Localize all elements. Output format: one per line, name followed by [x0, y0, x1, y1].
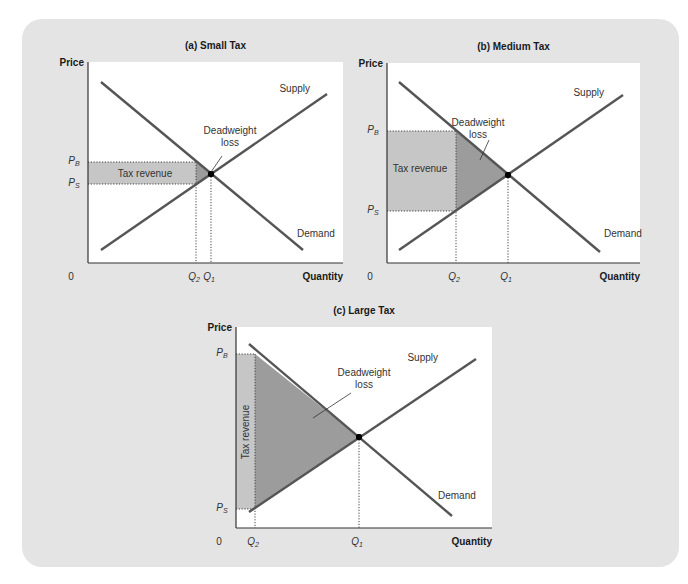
tax-revenue-label: Tax revenue: [118, 168, 173, 179]
y-axis-label: Price: [60, 57, 85, 68]
chart-title: (c) Large Tax: [333, 305, 395, 316]
tax-revenue-label: Tax revenue: [393, 163, 448, 174]
supply-label: Supply: [407, 352, 438, 363]
x-axis-label: Quantity: [302, 271, 343, 282]
pb-tick-label: PB: [216, 347, 228, 359]
origin-label: 0: [68, 271, 74, 282]
x-axis-label: Quantity: [451, 536, 492, 547]
tax-revenue-label: Tax revenue: [240, 404, 251, 459]
ps-tick-label: PS: [68, 177, 80, 189]
q1-tick-label: Q1: [203, 271, 215, 283]
chart-title: (a) Small Tax: [185, 40, 246, 51]
supply-label: Supply: [573, 87, 604, 98]
q1-tick-label: Q1: [500, 271, 512, 283]
demand-label: Demand: [604, 228, 642, 239]
chart-panel-a: (a) Small TaxPriceQuantity0PBPSQ2Q1Suppl…: [60, 40, 344, 283]
q2-tick-label: Q2: [247, 536, 259, 548]
ps-tick-label: PS: [367, 204, 379, 216]
chart-title: (b) Medium Tax: [477, 41, 550, 52]
y-axis-label: Price: [359, 58, 384, 69]
q2-tick-label: Q2: [188, 271, 200, 283]
demand-label: Demand: [438, 490, 476, 501]
chart-panel-c: (c) Large TaxPriceQuantity0PBPSQ2Q1Suppl…: [208, 305, 493, 548]
equilibrium-point: [505, 172, 511, 178]
q1-tick-label: Q1: [351, 536, 363, 548]
equilibrium-point: [356, 434, 362, 440]
tax-deadweight-loss-figure: (a) Small TaxPriceQuantity0PBPSQ2Q1Suppl…: [0, 0, 688, 584]
q2-tick-label: Q2: [448, 271, 460, 283]
demand-label: Demand: [297, 228, 335, 239]
origin-label: 0: [367, 271, 373, 282]
x-axis-label: Quantity: [599, 271, 640, 282]
pb-tick-label: PB: [68, 155, 80, 167]
pb-tick-label: PB: [367, 124, 379, 136]
chart-panel-b: (b) Medium TaxPriceQuantity0PBPSQ2Q1Supp…: [359, 41, 642, 283]
supply-label: Supply: [279, 83, 310, 94]
ps-tick-label: PS: [216, 502, 228, 514]
origin-label: 0: [216, 536, 222, 547]
y-axis-label: Price: [208, 322, 233, 333]
